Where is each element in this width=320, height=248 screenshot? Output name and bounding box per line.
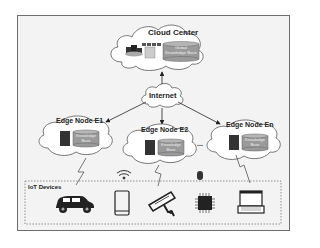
edge-node-e1-label: Edge Node E1: [56, 117, 103, 124]
internet-label: Internet: [149, 91, 177, 100]
iot-devices-label: IoT Devices: [28, 184, 61, 190]
wifi-icon: [117, 171, 131, 180]
smartphone-icon: [115, 191, 129, 215]
laptop-icon: [238, 191, 264, 213]
edge-node-en-label: Edge Node En: [226, 121, 273, 128]
edge-node-e2-kb-label: Knowledge Base: [159, 143, 183, 152]
car-icon: [56, 196, 94, 213]
edge-node-e2-label: Edge Node E2: [141, 126, 188, 133]
camera-icon: [149, 192, 175, 216]
chip-icon: [195, 193, 215, 213]
edge-node-en-kb-label: Knowledge Base: [243, 138, 267, 147]
lightning-icon: [155, 165, 161, 186]
cloud-center-label: Cloud Center: [148, 28, 198, 37]
global-kb-label: Global Knowledge Base: [165, 46, 197, 55]
bluetooth-icon: [197, 171, 203, 180]
ellipsis-label: ...: [197, 140, 203, 147]
edge-node-e1-kb-label: Knowledge Base: [74, 134, 98, 143]
